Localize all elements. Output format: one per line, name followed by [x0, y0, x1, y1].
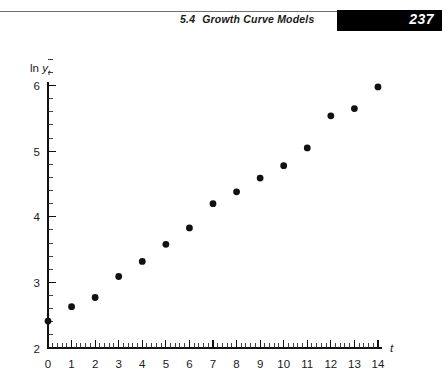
data-point — [280, 162, 287, 169]
y-tick-label: 2 — [34, 343, 40, 355]
x-tick-label: 3 — [116, 358, 122, 370]
data-point — [162, 241, 169, 248]
y-axis-tick-labels: 23456 — [34, 80, 41, 354]
x-tick-label: 1 — [68, 358, 74, 370]
data-point — [115, 273, 122, 280]
data-point — [351, 105, 358, 112]
x-tick-label: 8 — [233, 358, 239, 370]
x-tick-label: 2 — [92, 358, 98, 370]
data-point — [210, 200, 217, 207]
y-axis-ticks — [48, 59, 56, 348]
data-points-group — [45, 84, 382, 325]
page-number: 237 — [409, 11, 434, 27]
y-tick-label: 3 — [34, 277, 40, 289]
x-tick-label: 7 — [210, 358, 216, 370]
section-number: 5.4 — [180, 13, 195, 25]
data-point — [45, 318, 52, 325]
data-point — [304, 145, 311, 152]
data-point — [327, 112, 334, 119]
axes-group — [48, 82, 382, 349]
page-header: 5.4Growth Curve Models 237 — [0, 0, 442, 34]
y-tick-label: 6 — [34, 80, 40, 92]
x-tick-label: 4 — [139, 358, 146, 370]
data-point — [68, 303, 75, 310]
data-point — [257, 175, 264, 182]
data-point — [186, 225, 193, 232]
axis-titles: ln yt t — [30, 62, 394, 354]
data-point — [375, 84, 382, 91]
data-point — [92, 294, 99, 301]
x-tick-label: 5 — [163, 358, 169, 370]
plot-canvas: 23456 01234567891011121314 ln yt t — [0, 34, 442, 383]
running-head: 5.4Growth Curve Models — [180, 13, 320, 25]
scatter-plot-figure: 23456 01234567891011121314 ln yt t — [0, 34, 442, 383]
y-axis-label: ln yt — [30, 62, 51, 77]
x-tick-label: 6 — [186, 358, 192, 370]
x-axis-tick-labels: 01234567891011121314 — [45, 358, 385, 370]
x-tick-label: 14 — [372, 358, 385, 370]
x-tick-label: 9 — [257, 358, 263, 370]
y-axis-label-ln: ln — [30, 62, 42, 74]
x-axis-ticks — [48, 340, 378, 348]
y-tick-label: 4 — [34, 211, 41, 223]
x-tick-label: 11 — [301, 358, 313, 370]
x-tick-label: 12 — [324, 358, 337, 370]
data-point — [139, 258, 146, 265]
y-tick-label: 5 — [34, 146, 40, 158]
section-title: Growth Curve Models — [202, 13, 314, 25]
data-point — [233, 188, 240, 195]
x-tick-label: 13 — [348, 358, 361, 370]
x-tick-label: 10 — [277, 358, 290, 370]
x-tick-label: 0 — [45, 358, 51, 370]
x-axis-label: t — [390, 342, 394, 354]
